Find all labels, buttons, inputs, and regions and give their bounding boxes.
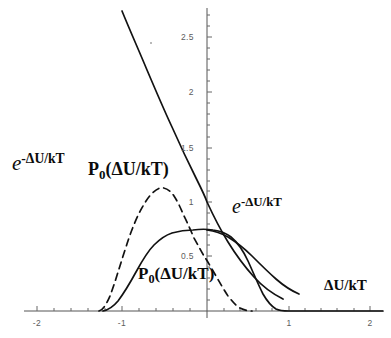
y-tick-label-0-5: 0.5 bbox=[156, 251, 194, 261]
annotation-exponential-left: e-ΔU/kT bbox=[12, 152, 65, 174]
y-tick-label-2: 2 bbox=[156, 87, 194, 97]
annotation-p0-lower-base: P bbox=[138, 264, 148, 283]
annotation-exponential-left-exponent: -ΔU/kT bbox=[21, 151, 64, 166]
x-tick-label-minus-2: -2 bbox=[24, 318, 50, 328]
y-tick-label-1: 1 bbox=[156, 197, 194, 207]
annotation-exponential-right-exponent: -ΔU/kT bbox=[241, 194, 282, 209]
annotation-exponential-right-base: e bbox=[232, 195, 241, 217]
annotation-p0-lower-argument: (ΔU/kT) bbox=[155, 264, 215, 283]
scan-artifact-speck bbox=[150, 42, 152, 44]
annotation-exponential-right: e-ΔU/kT bbox=[232, 196, 282, 216]
annotation-p0-upper-base: P bbox=[88, 159, 99, 179]
x-tick-label-1: 1 bbox=[276, 318, 302, 328]
annotation-p0-upper-argument: (ΔU/kT) bbox=[105, 159, 168, 179]
y-tick-label-2-5: 2.5 bbox=[156, 32, 194, 42]
y-tick-label-1-5: 1.5 bbox=[156, 143, 194, 153]
x-tick-label-2: 2 bbox=[357, 318, 383, 328]
annotation-p0-lower: P0(ΔU/kT) bbox=[138, 265, 214, 285]
annotation-exponential-left-base: e bbox=[12, 151, 21, 175]
x-tick-label-minus-1: -1 bbox=[109, 318, 135, 328]
x-axis-label: ΔU/kT bbox=[324, 278, 367, 293]
chart-figure: 2.5 2 1.5 1 0.5 -2 -1 1 2 e-ΔU/kT P0(ΔU/… bbox=[0, 0, 391, 338]
annotation-p0-upper: P0(ΔU/kT) bbox=[88, 160, 169, 182]
